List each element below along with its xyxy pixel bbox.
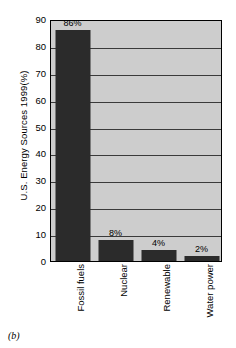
bar-slot: 4% xyxy=(137,21,180,261)
y-axis-tick-label: 30 xyxy=(35,177,46,187)
bar-series: 86%8%4%2% xyxy=(51,21,221,261)
y-axis-tick-label: 70 xyxy=(35,69,46,79)
y-axis-tick-label: 40 xyxy=(35,150,46,160)
y-axis-tick-label: 20 xyxy=(35,203,46,213)
y-axis-tick-labels: 0102030405060708090 xyxy=(0,20,50,262)
x-label-slot: Renewable xyxy=(136,262,179,324)
y-axis-tick-label: 10 xyxy=(35,230,46,240)
x-axis-category-label: Renewable xyxy=(162,264,172,312)
x-axis-category-labels: Fossil fuelsNuclearRenewableWater power xyxy=(50,262,222,324)
y-axis-tick-label: 0 xyxy=(41,257,46,267)
x-axis-category-label: Nuclear xyxy=(119,264,129,297)
bar-slot: 2% xyxy=(180,21,223,261)
bar-value-label: 8% xyxy=(109,228,122,238)
y-axis-tick-label: 80 xyxy=(35,42,46,52)
y-axis-tick-label: 60 xyxy=(35,96,46,106)
bar[interactable] xyxy=(184,256,219,261)
x-label-slot: Water power xyxy=(179,262,222,324)
figure: U.S. Energy Sources 1999(%) 010203040506… xyxy=(0,0,236,348)
bar[interactable] xyxy=(98,240,133,262)
bar[interactable] xyxy=(141,250,176,261)
bar-value-label: 4% xyxy=(152,238,165,248)
bar-value-label: 86% xyxy=(63,18,81,28)
plot-area: 86%8%4%2% xyxy=(50,20,222,262)
bar-slot: 8% xyxy=(94,21,137,261)
x-axis-category-label: Water power xyxy=(205,264,215,318)
x-axis-category-label: Fossil fuels xyxy=(76,264,86,312)
bar-slot: 86% xyxy=(51,21,94,261)
bar-value-label: 2% xyxy=(195,244,208,254)
figure-caption: (b) xyxy=(8,330,20,341)
y-axis-tick-label: 50 xyxy=(35,123,46,133)
y-axis-tick-label: 90 xyxy=(35,15,46,25)
bar[interactable] xyxy=(55,30,90,261)
x-label-slot: Nuclear xyxy=(93,262,136,324)
x-label-slot: Fossil fuels xyxy=(50,262,93,324)
